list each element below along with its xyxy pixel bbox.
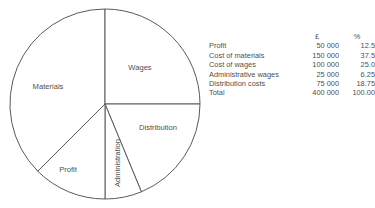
pie-chart-figure: Wages Distribution Administration Profit… — [0, 0, 210, 208]
pie-label-materials: Materials — [33, 82, 64, 91]
cell-item: Total — [209, 89, 295, 98]
figures-table-container: £ % Profit 50 000 12.5 Cost of materials… — [209, 33, 375, 99]
pie-chart-svg: Wages Distribution Administration Profit… — [0, 0, 210, 208]
table-header-row: £ % — [209, 33, 375, 42]
table-row-total: Total 400 000 100.00 — [209, 89, 375, 98]
figures-table: £ % Profit 50 000 12.5 Cost of materials… — [209, 33, 375, 99]
cell-percent: 100.00 — [339, 89, 375, 98]
pie-slice-wages — [105, 9, 200, 104]
pie-label-administration: Administration — [113, 139, 122, 187]
pie-label-wages: Wages — [128, 63, 152, 72]
pie-label-profit: Profit — [59, 165, 78, 174]
table-row: Distribution costs 75 000 18.75 — [209, 80, 375, 89]
pie-label-distribution: Distribution — [139, 123, 177, 132]
cell-amount: 400 000 — [295, 89, 339, 98]
